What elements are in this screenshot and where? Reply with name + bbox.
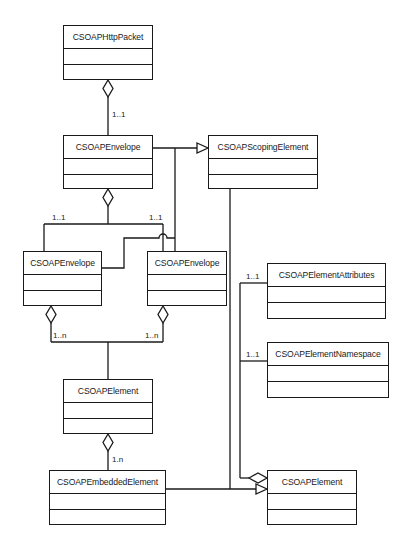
class-csoaphttppacket: CSOAPHttpPacket bbox=[63, 25, 153, 80]
class-name: CSOAPScopingElement bbox=[209, 136, 317, 159]
class-attributes bbox=[64, 49, 152, 65]
class-operations bbox=[268, 382, 388, 397]
class-csoapelement-right: CSOAPElement bbox=[267, 470, 357, 525]
class-csoapelement-middle: CSOAPElement bbox=[63, 379, 153, 434]
class-operations bbox=[24, 291, 101, 305]
class-name: CSOAPElement bbox=[268, 471, 356, 494]
class-csoapelementnamespace: CSOAPElementNamespace bbox=[267, 342, 389, 398]
multiplicity-label: 1..n bbox=[145, 331, 158, 340]
class-attributes bbox=[268, 366, 388, 382]
class-attributes bbox=[24, 275, 101, 291]
class-operations bbox=[64, 65, 152, 79]
class-operations bbox=[50, 510, 165, 524]
multiplicity-label: 1..1 bbox=[246, 350, 259, 359]
class-name: CSOAPHttpPacket bbox=[64, 26, 152, 49]
class-operations bbox=[268, 510, 356, 524]
multiplicity-label: 1..1 bbox=[112, 110, 125, 119]
class-csoapelementattributes: CSOAPElementAttributes bbox=[267, 263, 386, 319]
class-name: CSOAPElementNamespace bbox=[268, 343, 388, 366]
class-name: CSOAPEnvelope bbox=[64, 136, 152, 159]
class-operations bbox=[268, 303, 385, 318]
class-csoapenvelope-top: CSOAPEnvelope bbox=[63, 135, 153, 189]
multiplicity-label: 1..1 bbox=[52, 213, 65, 222]
class-attributes bbox=[50, 494, 165, 510]
class-attributes bbox=[268, 494, 356, 510]
class-csoapenvelope-left: CSOAPEnvelope bbox=[23, 251, 102, 306]
class-name: CSOAPEnvelope bbox=[148, 252, 226, 275]
class-name: CSOAPElement bbox=[64, 380, 152, 403]
uml-class-diagram: CSOAPHttpPacket CSOAPEnvelope CSOAPScopi… bbox=[0, 0, 405, 541]
class-csoapscopingelement: CSOAPScopingElement bbox=[208, 135, 318, 189]
class-operations bbox=[64, 419, 152, 433]
class-attributes bbox=[268, 287, 385, 303]
class-attributes bbox=[64, 159, 152, 175]
multiplicity-label: 1..n bbox=[53, 331, 66, 340]
class-operations bbox=[148, 291, 226, 305]
multiplicity-label: 1..1 bbox=[149, 213, 162, 222]
class-attributes bbox=[209, 159, 317, 175]
class-csoapenvelope-right: CSOAPEnvelope bbox=[147, 251, 227, 306]
multiplicity-label: 1.n bbox=[112, 455, 123, 464]
class-name: CSOAPElementAttributes bbox=[268, 264, 385, 287]
class-attributes bbox=[64, 403, 152, 419]
class-name: CSOAPEmbeddedElement bbox=[50, 471, 165, 494]
class-name: CSOAPEnvelope bbox=[24, 252, 101, 275]
class-operations bbox=[64, 175, 152, 188]
multiplicity-label: 1..1 bbox=[246, 272, 259, 281]
class-csoapembeddedelement: CSOAPEmbeddedElement bbox=[49, 470, 166, 525]
class-operations bbox=[209, 175, 317, 188]
class-attributes bbox=[148, 275, 226, 291]
generalization-arrows bbox=[197, 143, 267, 494]
